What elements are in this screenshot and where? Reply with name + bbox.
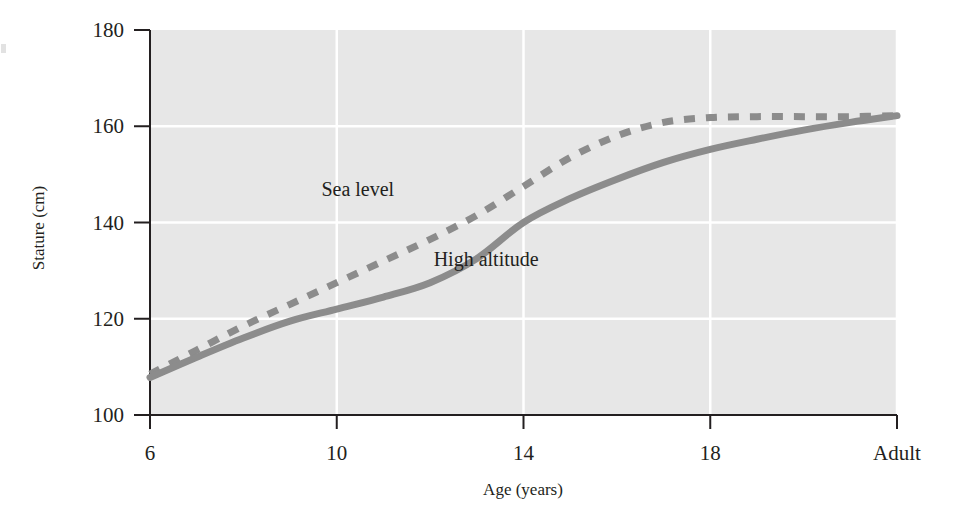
x-tick-label: 14 xyxy=(513,441,535,465)
y-tick-label: 140 xyxy=(93,211,125,235)
y-tick-label: 160 xyxy=(93,114,125,138)
y-tick-label: 120 xyxy=(93,307,125,331)
annotation-high-altitude: High altitude xyxy=(434,248,539,271)
x-tick-label: 18 xyxy=(700,441,721,465)
x-axis-title: Age (years) xyxy=(483,480,563,499)
x-tick-label: 6 xyxy=(145,441,156,465)
stature-growth-chart: 100120140160180 6101418Adult Sea levelHi… xyxy=(0,0,954,521)
y-axis-ticks xyxy=(134,30,150,415)
y-axis-title: Stature (cm) xyxy=(29,186,48,271)
annotation-sea-level: Sea level xyxy=(321,178,394,200)
x-tick-label: Adult xyxy=(873,441,921,465)
y-tick-label: 180 xyxy=(93,18,125,42)
y-axis-tick-labels: 100120140160180 xyxy=(93,18,125,427)
figure-container: 100120140160180 6101418Adult Sea levelHi… xyxy=(0,0,954,521)
x-axis-ticks xyxy=(150,415,897,429)
x-tick-label: 10 xyxy=(326,441,347,465)
x-axis-tick-labels: 6101418Adult xyxy=(145,441,921,465)
y-tick-label: 100 xyxy=(93,403,125,427)
